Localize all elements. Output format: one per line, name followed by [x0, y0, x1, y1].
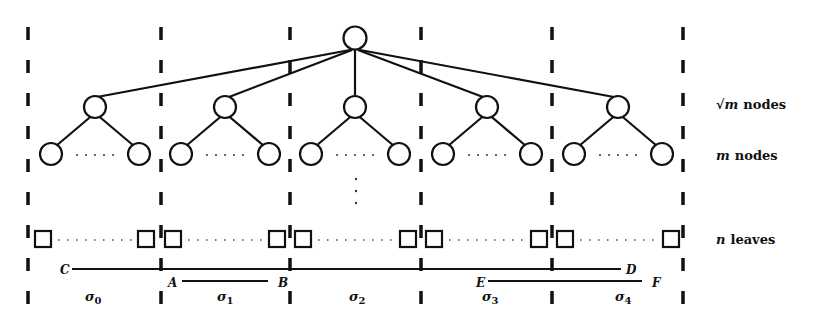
level-labels: √mnodes mnodes nleaves [716, 97, 786, 247]
leaf [426, 231, 442, 247]
label-b: B [277, 276, 288, 290]
leaf [269, 231, 285, 247]
partition-labels: σ0 σ1 σ2 σ3 σ4 [85, 289, 632, 306]
root-node [344, 27, 367, 50]
n-leaves-label: nleaves [716, 232, 775, 247]
sigma-4: σ4 [615, 289, 632, 306]
label-a: A [167, 276, 177, 290]
label-d: D [625, 263, 637, 277]
m-node [563, 143, 585, 165]
m-node [651, 143, 673, 165]
leaves [35, 231, 679, 247]
leaf [35, 231, 51, 247]
leaf [557, 231, 573, 247]
leaf [138, 231, 154, 247]
interval-lines [72, 269, 642, 281]
sigma-0: σ0 [85, 289, 102, 306]
tree-partition-diagram: C A B E D F σ0 σ1 σ2 σ3 σ4 √mnodes mnode… [0, 0, 816, 322]
leaf [295, 231, 311, 247]
leaf [165, 231, 181, 247]
sqrt-m-nodes-label: √mnodes [716, 97, 786, 112]
m-node [520, 143, 542, 165]
sqrt-m-node [607, 96, 629, 118]
subtrees [40, 96, 673, 165]
vertical-ellipsis [355, 178, 357, 204]
m-node [40, 143, 62, 165]
label-e: E [475, 276, 486, 290]
m-node [170, 143, 192, 165]
sigma-3: σ3 [482, 289, 499, 306]
m-node [128, 143, 150, 165]
m-node-ellipses [76, 154, 637, 156]
leaf [400, 231, 416, 247]
leaf [663, 231, 679, 247]
m-node [300, 143, 322, 165]
label-c: C [60, 263, 70, 277]
sqrt-m-node [476, 96, 498, 118]
m-node [388, 143, 410, 165]
sigma-1: σ1 [217, 289, 234, 306]
sqrt-m-node [344, 96, 366, 118]
sqrt-m-node [214, 96, 236, 118]
m-node [432, 143, 454, 165]
m-node [258, 143, 280, 165]
m-nodes-label: mnodes [716, 148, 778, 163]
sigma-2: σ2 [349, 289, 366, 306]
label-f: F [651, 276, 662, 290]
root-edges [97, 50, 614, 97]
sqrt-m-node [84, 96, 106, 118]
leaf [531, 231, 547, 247]
